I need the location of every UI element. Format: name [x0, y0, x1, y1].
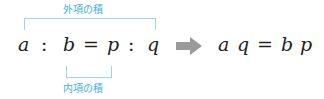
term-a: a: [218, 32, 229, 56]
colon-2: :: [128, 32, 134, 56]
term-p: p: [107, 32, 119, 56]
term-q: q: [237, 32, 249, 56]
equals: =: [83, 32, 99, 56]
inner-product-label: 内項の積: [63, 80, 103, 95]
term-a: a: [18, 32, 29, 56]
term-p: p: [300, 32, 312, 56]
outer-product-label: 外項の積: [63, 1, 103, 16]
inner-product-bracket: [66, 66, 112, 78]
colon-1: :: [41, 32, 47, 56]
term-b: b: [281, 32, 293, 56]
right-arrow-icon: [176, 37, 202, 55]
equals: =: [257, 32, 273, 56]
outer-product-bracket: [24, 18, 156, 30]
term-q: q: [147, 32, 159, 56]
term-b: b: [63, 32, 75, 56]
